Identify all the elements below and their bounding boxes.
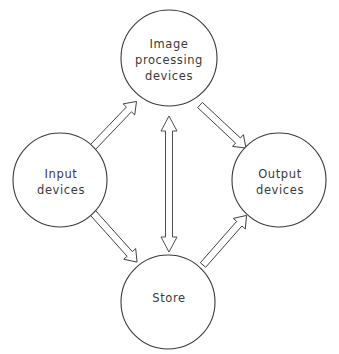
node-image-processing-devices: Image processing devices: [121, 10, 217, 106]
arrow-store-to-output: [197, 210, 253, 270]
node-label-line: Input: [45, 167, 78, 181]
arrow-processing-to-output: [195, 99, 252, 154]
node-label-line: devices: [37, 183, 85, 197]
arrow-input-to-store: [87, 208, 143, 268]
node-store: Store: [121, 255, 215, 349]
node-output-devices: Output devices: [232, 133, 326, 227]
node-label-line: devices: [256, 183, 304, 197]
node-label-line: Image: [149, 37, 188, 51]
node-input-devices: Input devices: [13, 133, 107, 227]
node-label-line: Output: [258, 167, 302, 181]
arrow-processing-store-bidirectional: [161, 116, 177, 252]
node-label-line: devices: [145, 69, 193, 83]
block-diagram: Image processing devices Input devices O…: [0, 0, 339, 354]
node-label-line: processing: [135, 53, 203, 67]
arrow-input-to-processing: [87, 96, 142, 153]
node-label-line: Store: [152, 291, 185, 305]
